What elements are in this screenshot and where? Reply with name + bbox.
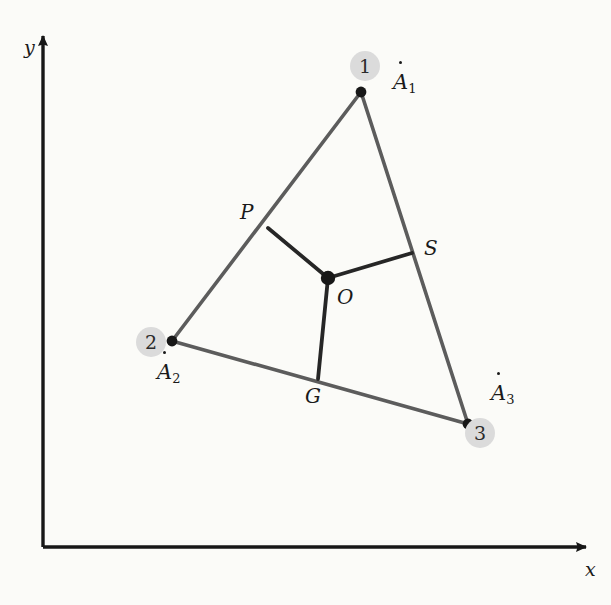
edge-a1-a2 bbox=[172, 92, 361, 341]
vertex-label-a1: A1 bbox=[393, 72, 416, 95]
x-axis-label: x bbox=[585, 560, 596, 579]
badge-vertex-2: 2 bbox=[136, 327, 166, 357]
point-label-g: G bbox=[305, 386, 321, 406]
spoke-o-s bbox=[328, 253, 412, 278]
vertex-label-a1-subscript: 1 bbox=[408, 81, 416, 96]
badge-vertex-2-label: 2 bbox=[145, 331, 157, 353]
vertex-label-a2: A2 bbox=[157, 362, 180, 385]
badge-vertex-3: 3 bbox=[465, 418, 495, 448]
vertex-label-a2-subscript: 2 bbox=[172, 371, 180, 386]
vertex-label-a2-letter: A bbox=[157, 360, 172, 384]
badge-vertex-1-label: 1 bbox=[359, 55, 371, 77]
edge-a3-a1 bbox=[361, 92, 468, 424]
vertex-label-a1-letter: A bbox=[393, 70, 408, 94]
vertex-label-a3-letter: A bbox=[491, 381, 506, 405]
spoke-o-p bbox=[268, 228, 328, 278]
vertex-label-a3-subscript: 3 bbox=[506, 392, 514, 407]
y-axis-label: y bbox=[24, 38, 35, 57]
point-label-o: O bbox=[337, 287, 353, 307]
badge-vertex-3-label: 3 bbox=[474, 422, 486, 444]
vertex-dot-a2 bbox=[167, 336, 178, 347]
badge-vertex-1: 1 bbox=[350, 51, 380, 81]
point-label-p: P bbox=[240, 202, 253, 222]
vertex-label-a3: A3 bbox=[491, 383, 514, 406]
vertex-dot-a1 bbox=[356, 87, 367, 98]
axes-group bbox=[43, 36, 586, 547]
spoke-o-g bbox=[318, 278, 328, 379]
point-dot-o bbox=[321, 271, 335, 285]
geometry-figure: y x 1 2 3 A1 A2 A3 O P S G bbox=[0, 0, 611, 605]
point-label-s: S bbox=[424, 238, 438, 258]
figure-canvas bbox=[0, 0, 611, 605]
